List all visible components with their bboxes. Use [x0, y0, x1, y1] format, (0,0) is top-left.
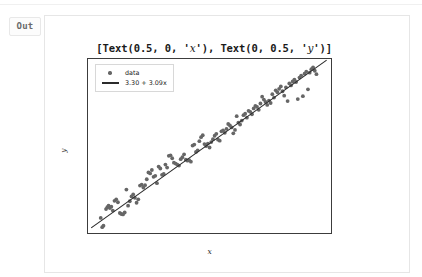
x-tick-mark — [311, 233, 312, 234]
y-tick-mark — [87, 115, 88, 116]
x-tick-mark — [269, 233, 270, 234]
x-tick-mark — [184, 233, 185, 234]
legend-line-icon — [100, 82, 120, 83]
y-tick-mark — [87, 66, 88, 67]
output-text-mid: '), Text(0, 0.5, ' — [196, 42, 308, 54]
legend-marker-icon — [100, 71, 120, 74]
y-tick-mark — [87, 189, 88, 190]
output-cell: [Text(0.5, 0, 'x'), Text(0, 0.5, 'y')] d… — [44, 15, 410, 273]
output-prompt-label: Out — [9, 17, 41, 36]
plot-axes-frame: data 3.30 + 3.09x 51015202530350246810 — [87, 58, 332, 234]
legend-label-fit: 3.30 + 3.09x — [125, 79, 167, 87]
x-tick-mark — [142, 233, 143, 234]
x-axis-label: x — [87, 247, 332, 256]
legend-entry-data: data — [100, 68, 167, 78]
legend-entry-fit: 3.30 + 3.09x — [100, 78, 167, 88]
y-tick-mark — [87, 140, 88, 141]
notebook-output-page: Out [Text(0.5, 0, 'x'), Text(0, 0.5, 'y'… — [0, 0, 422, 277]
y-tick-mark — [87, 91, 88, 92]
cell-top-divider — [0, 4, 422, 5]
output-text-prefix: [Text(0.5, 0, ' — [96, 42, 189, 54]
x-tick-mark — [99, 233, 100, 234]
y-tick-mark — [87, 164, 88, 165]
x-tick-mark — [226, 233, 227, 234]
output-text-suffix: ')] — [313, 42, 332, 54]
y-tick-mark — [87, 213, 88, 214]
matplotlib-figure: data 3.30 + 3.09x 51015202530350246810 x… — [59, 54, 349, 259]
chart-legend: data 3.30 + 3.09x — [95, 64, 174, 92]
y-axis-label: y — [59, 148, 68, 152]
legend-label-data: data — [125, 69, 139, 77]
